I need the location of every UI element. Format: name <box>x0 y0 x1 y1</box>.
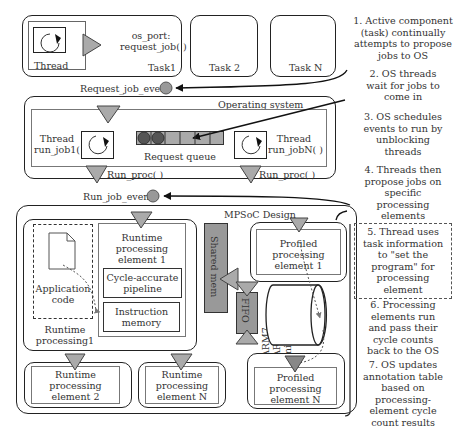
note7-line4: processing- <box>353 394 453 406</box>
request-job-event-label: Request_job_event <box>80 83 170 94</box>
thread1-line1: Thread <box>34 133 80 144</box>
run-proc-right-label: Run_proc( ) <box>259 169 315 180</box>
ppeN-line2: processing <box>254 383 337 394</box>
rpe1-line1: Runtime <box>98 232 186 243</box>
note4-line3: specific <box>353 187 453 199</box>
note5-line1: 5. Thread uses <box>355 226 451 238</box>
rpe2-line1: Runtime <box>31 369 120 380</box>
rpeN-line2: processing <box>145 380 219 391</box>
cycle-accurate-pipeline-label: Cycle-accurate pipeline <box>103 272 182 294</box>
note7-line5: element cycle <box>353 405 453 417</box>
thread1-label: Thread run_job1( ) <box>34 133 80 155</box>
note-5: 5. Thread uses task information to "set … <box>354 223 452 299</box>
note5-line3: to "set the <box>355 249 451 261</box>
note-4: 4. Threads then propose jobs on specific… <box>353 164 453 222</box>
thread1-line2: run_job1( ) <box>34 144 80 155</box>
note7-line6: count results <box>353 417 453 429</box>
ppeN-line1: Profiled <box>254 372 337 383</box>
rpe2-line2: processing <box>31 380 120 391</box>
pipeline-line1: Cycle-accurate <box>103 272 182 283</box>
note-2: 2. OS threads wait for jobs to come in <box>353 68 453 103</box>
run-proc-left-label: Run_proc( ) <box>107 169 163 180</box>
profiled-pe1-label: Profiled processing element 1 <box>256 238 341 271</box>
note1-line2: (task) continually <box>353 27 453 39</box>
rpeN-line3: element N <box>145 391 219 402</box>
shared-mem-label: Shared mem <box>209 236 220 297</box>
fifo-label: FIFO <box>240 298 251 323</box>
imem-line1: Instruction <box>103 306 180 317</box>
note3-line3: unblocking <box>353 134 453 146</box>
note7-line2: annotation table <box>353 371 453 383</box>
mpsoc-title: MPSoC Design <box>224 209 296 220</box>
note-1: 1. Active component (task) continually a… <box>353 15 453 61</box>
task2-box: Task 2 <box>190 15 258 77</box>
rp1-line1: Runtime <box>30 324 100 335</box>
note4-line1: 4. Threads then <box>353 164 453 176</box>
note5-line6: element <box>355 284 451 296</box>
app-code-line2: code <box>33 294 93 305</box>
rpe1-line2: processing <box>98 243 186 254</box>
request-queue-label: Request queue <box>140 151 220 162</box>
taskN-label: Task N <box>289 62 322 73</box>
threadN-box <box>234 131 267 159</box>
request-queue <box>136 131 224 145</box>
task1-label: Task1 <box>148 62 176 73</box>
os-port-line1: os_port: <box>120 30 182 41</box>
threadN-label: Thread run_jobN( ) <box>268 133 320 155</box>
task2-label: Task 2 <box>209 62 240 73</box>
note7-line1: 7. OS updates <box>353 359 453 371</box>
note-3: 3. OS schedules events to run by unblock… <box>353 111 453 157</box>
note-7: 7. OS updates annotation table based on … <box>353 359 453 429</box>
note4-line2: propose jobs on <box>353 176 453 188</box>
processor-types-label: ARM7 ARM9 microblaze <box>260 304 293 357</box>
note6-line4: cycle counts <box>353 334 453 346</box>
runtime-pe2-label: Runtime processing element 2 <box>31 369 120 402</box>
note7-line3: based on <box>353 382 453 394</box>
imem-line2: memory <box>103 317 180 328</box>
rpe2-line3: element 2 <box>31 391 120 402</box>
ppe1-line1: Profiled <box>256 238 341 249</box>
os-port-line2: request_job( ) <box>120 41 182 52</box>
note3-line1: 3. OS schedules <box>353 111 453 123</box>
runtime-processing1-label: Runtime processing1 <box>30 324 100 346</box>
note1-line3: attempts to propose <box>353 38 453 50</box>
task1-box: Thread os_port: request_job( ) Task1 <box>22 15 182 77</box>
note2-line3: come in <box>353 91 453 103</box>
note3-line4: threads <box>353 146 453 158</box>
thread-label: Thread <box>34 60 68 71</box>
ppe1-line3: element 1 <box>256 260 341 271</box>
run-job-event-label: Run_job_event <box>83 191 153 202</box>
app-code-line1: Application <box>33 283 93 294</box>
thread1-box <box>81 131 114 159</box>
rpeN-line1: Runtime <box>145 369 219 380</box>
ppeN-line3: element N <box>254 394 337 405</box>
note4-line5: elements <box>353 210 453 222</box>
note5-line2: task information <box>355 238 451 250</box>
note6-line1: 6. Processing <box>353 299 453 311</box>
note1-line1: 1. Active component <box>353 15 453 27</box>
note3-line2: events to run by <box>353 123 453 135</box>
note6-line3: and pass their <box>353 322 453 334</box>
thread-icon-box <box>33 27 66 53</box>
instruction-memory-label: Instruction memory <box>103 306 180 328</box>
threadN-line2: run_jobN( ) <box>268 144 320 155</box>
note1-line4: jobs to OS <box>353 50 453 62</box>
note2-line1: 2. OS threads <box>353 68 453 80</box>
os-port-label: os_port: request_job( ) <box>120 30 182 52</box>
application-code-label: Application code <box>33 283 93 305</box>
runtime-pe1-label: Runtime processing element 1 <box>98 232 186 265</box>
note6-line2: elements run <box>353 311 453 323</box>
note4-line4: processing <box>353 199 453 211</box>
rp1-line2: processing1 <box>30 335 100 346</box>
proc-line3: microblaze <box>282 304 293 357</box>
ppe1-line2: processing <box>256 249 341 260</box>
note2-line2: wait for jobs to <box>353 80 453 92</box>
note5-line5: processing <box>355 272 451 284</box>
note-6: 6. Processing elements run and pass thei… <box>353 299 453 357</box>
taskN-box: Task N <box>270 15 336 77</box>
threadN-line1: Thread <box>268 133 320 144</box>
pipeline-line2: pipeline <box>103 283 182 294</box>
rpe1-line3: element 1 <box>98 254 186 265</box>
profiled-peN-label: Profiled processing element N <box>254 372 337 405</box>
runtime-peN-label: Runtime processing element N <box>145 369 219 402</box>
